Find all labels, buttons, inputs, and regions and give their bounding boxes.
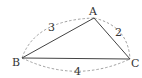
vertex-label-a: A bbox=[88, 5, 98, 18]
side-length-ac: 2 bbox=[115, 26, 122, 39]
side-bc bbox=[22, 58, 130, 59]
vertex-label-c: C bbox=[131, 57, 139, 70]
side-length-bc: 4 bbox=[74, 65, 81, 78]
triangle-diagram: A B C 3 2 4 bbox=[0, 0, 142, 78]
vertex-label-b: B bbox=[12, 56, 20, 69]
side-length-ab: 3 bbox=[48, 21, 55, 34]
